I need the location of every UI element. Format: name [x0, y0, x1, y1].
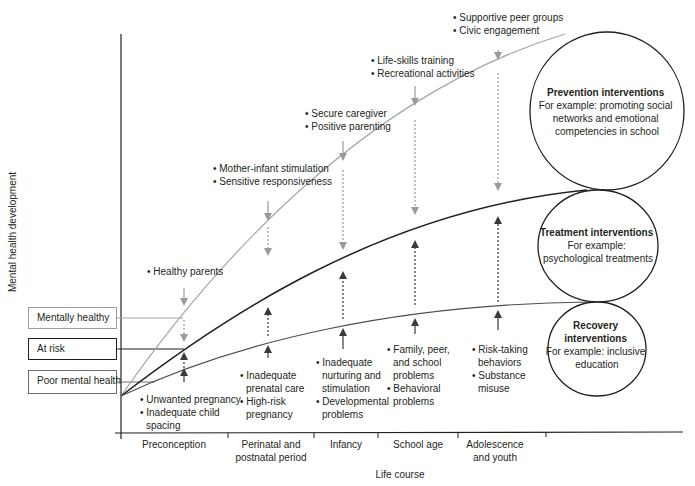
- prevention-interventions: Prevention interventions For example: pr…: [530, 32, 684, 190]
- recovery-interventions: Recovery interventions For example: incl…: [546, 302, 648, 396]
- protective-factor-preconception: • Healthy parents: [147, 266, 223, 277]
- risk-factor-school-age: • Family, peer, and school problems • Be…: [387, 344, 453, 407]
- risk-factor-perinatal: • Inadequate prenatal care • High-risk p…: [240, 370, 307, 420]
- intervention-circles: Prevention interventions For example: pr…: [530, 32, 684, 396]
- level-box-poor-mental-health: Poor mental health: [28, 370, 117, 394]
- x-axis: [115, 432, 683, 433]
- level-box-mentally-healthy: Mentally healthy: [28, 307, 117, 329]
- level-label-mentally-healthy: Mentally healthy: [37, 312, 109, 323]
- treatment-interventions: Treatment interventions For example: psy…: [538, 190, 658, 302]
- y-axis-label: Mental health development: [7, 172, 18, 292]
- protective-factor-perinatal: • Mother-infant stimulation• Sensitive r…: [213, 163, 332, 187]
- risk-factor-infancy: • Inadequate nurturing and stimulation •…: [316, 357, 392, 420]
- level-label-poor-mental-health: Poor mental health: [37, 375, 121, 386]
- trajectories: [121, 34, 590, 396]
- protective-arrows: [184, 50, 498, 338]
- life-course-mental-health-diagram: Mental health development Life course Pr…: [0, 0, 695, 486]
- risk-factor-labels: • Unwanted pregnancy • Inadequate child …: [140, 344, 531, 431]
- stage-label-infancy: Infancy: [330, 439, 362, 450]
- protective-factor-infancy: • Secure caregiver• Positive parenting: [305, 108, 391, 132]
- risk-factor-adolescence: • Risk-taking behaviors • Substance misu…: [472, 344, 531, 394]
- level-label-at-risk: At risk: [37, 343, 65, 354]
- stage-label-adolescence: Adolescenceand youth: [466, 439, 524, 463]
- stage-label-perinatal: Perinatal andpostnatal period: [235, 439, 306, 463]
- x-axis-label: Life course: [376, 469, 425, 480]
- protective-factor-school-age: • Life-skills training• Recreational act…: [371, 55, 475, 79]
- protective-factor-adolescence: • Supportive peer groups• Civic engageme…: [453, 12, 563, 36]
- stage-label-preconception: Preconception: [142, 439, 206, 450]
- stage-label-school-age: School age: [393, 439, 443, 450]
- level-box-at-risk: At risk: [28, 338, 117, 360]
- level-connectors: [117, 318, 184, 382]
- risk-factor-preconception: • Unwanted pregnancy • Inadequate child …: [140, 394, 244, 431]
